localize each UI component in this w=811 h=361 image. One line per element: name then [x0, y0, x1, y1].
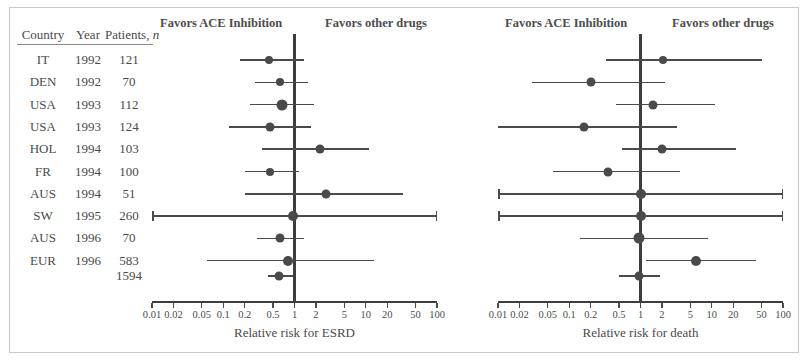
x-tick-label: 20	[728, 309, 739, 320]
cell-year: 1994	[69, 141, 107, 157]
x-tick	[244, 303, 245, 308]
ci-arrow-left	[152, 211, 154, 221]
x-tick	[640, 303, 641, 308]
x-axis-title-esrd: Relative risk for ESRD	[234, 325, 355, 341]
x-tick	[315, 303, 316, 308]
x-tick-label: 1	[292, 309, 297, 320]
x-tick	[711, 303, 712, 308]
panel-header-favors-right: Favors other drugs	[672, 16, 774, 31]
x-tick	[387, 303, 388, 308]
data-point-marker	[691, 256, 701, 266]
x-tick-label: 5	[342, 309, 347, 320]
x-tick	[733, 303, 734, 308]
x-tick-label: 0.1	[217, 309, 230, 320]
cell-patients: 583	[105, 253, 153, 269]
data-point-marker	[276, 78, 284, 86]
ci-arrow-right	[782, 211, 784, 221]
x-tick	[590, 303, 591, 308]
cell-country: FR	[17, 164, 69, 180]
x-tick-label: 0.2	[584, 309, 597, 320]
data-point-marker	[265, 56, 273, 64]
data-point-marker	[659, 56, 667, 64]
cell-year: 1995	[69, 208, 107, 224]
x-tick-label: 50	[756, 309, 767, 320]
x-tick	[497, 303, 498, 308]
column-header-country: Country	[17, 27, 69, 45]
x-tick	[547, 303, 548, 308]
data-point-marker	[586, 78, 595, 87]
x-tick-label: 50	[410, 309, 421, 320]
cell-country: USA	[17, 119, 69, 135]
data-point-marker	[288, 211, 298, 221]
cell-patients: 103	[105, 141, 153, 157]
x-tick	[661, 303, 662, 308]
cell-year: 1996	[69, 230, 107, 246]
reference-line-rr-1	[639, 34, 641, 301]
panel-header-favors-left: Favors ACE Inhibition	[505, 16, 627, 31]
data-point-marker	[266, 122, 275, 131]
x-tick-label: 0.01	[143, 309, 161, 320]
x-tick-label: 0.05	[539, 309, 557, 320]
data-point-marker	[636, 211, 646, 221]
x-tick-label: 0.05	[193, 309, 211, 320]
ci-arrow-right	[436, 211, 438, 221]
column-header-patients-n: n	[153, 27, 160, 42]
cell-patients: 70	[105, 74, 153, 90]
x-tick-label: 0.01	[489, 309, 507, 320]
cell-country: HOL	[17, 141, 69, 157]
cell-patients: 70	[105, 230, 153, 246]
data-point-marker	[266, 168, 274, 176]
confidence-interval-line	[532, 82, 665, 84]
data-point-marker	[604, 167, 613, 176]
data-point-marker	[636, 189, 646, 199]
cell-patients: 112	[105, 97, 153, 113]
data-point-marker	[579, 122, 588, 131]
cell-country: IT	[17, 52, 69, 68]
x-tick-label: 2	[659, 309, 664, 320]
x-tick	[436, 303, 437, 308]
x-tick	[761, 303, 762, 308]
data-point-marker	[649, 100, 658, 109]
cell-patients: 100	[105, 164, 153, 180]
ci-arrow-left	[498, 189, 500, 199]
x-tick	[365, 303, 366, 308]
x-tick	[519, 303, 520, 308]
cell-country: AUS	[17, 186, 69, 202]
x-tick-label: 0.5	[612, 309, 625, 320]
confidence-interval-line	[616, 104, 715, 106]
x-tick-label: 10	[361, 309, 372, 320]
x-tick	[690, 303, 691, 308]
x-tick-label: 10	[707, 309, 718, 320]
panel-header-favors-left: Favors ACE Inhibition	[160, 16, 282, 31]
x-tick-label: 20	[382, 309, 393, 320]
forest-plot-figure: Country Year Patients, n IT1992121DEN199…	[0, 0, 811, 361]
cell-country: SW	[17, 208, 69, 224]
data-point-marker	[634, 272, 643, 281]
column-header-patients-text: Patients,	[105, 27, 153, 42]
x-tick-label: 1	[638, 309, 643, 320]
cell-country: DEN	[17, 74, 69, 90]
confidence-interval-line	[622, 148, 736, 150]
cell-country: USA	[17, 97, 69, 113]
confidence-interval-line	[606, 59, 761, 61]
cell-year: 1994	[69, 186, 107, 202]
x-tick	[294, 303, 295, 308]
column-header-year: Year	[69, 27, 107, 45]
cell-patients: 121	[105, 52, 153, 68]
x-tick-label: 5	[688, 309, 693, 320]
x-tick-label: 0.02	[164, 309, 182, 320]
x-tick-label: 0.5	[266, 309, 279, 320]
cell-year: 1992	[69, 74, 107, 90]
cell-country: AUS	[17, 230, 69, 246]
x-tick	[782, 303, 783, 308]
cell-year: 1993	[69, 97, 107, 113]
x-tick	[569, 303, 570, 308]
data-point-marker	[274, 272, 283, 281]
x-tick-label: 2	[313, 309, 318, 320]
data-point-marker	[657, 145, 666, 154]
data-point-marker	[633, 233, 644, 244]
x-tick	[272, 303, 273, 308]
cell-patients: 124	[105, 119, 153, 135]
x-tick	[415, 303, 416, 308]
confidence-interval-line	[646, 260, 756, 262]
